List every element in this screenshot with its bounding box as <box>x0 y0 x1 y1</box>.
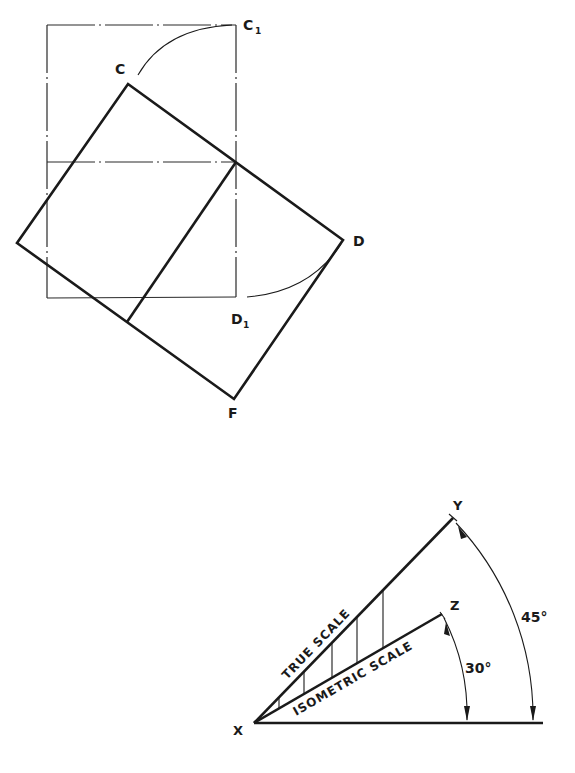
label-d: D <box>353 233 365 249</box>
label-x: X <box>233 723 243 738</box>
arrowhead-30-bottom <box>464 706 470 721</box>
label-y: Y <box>452 498 463 513</box>
inner-dividing-line <box>127 162 236 322</box>
label-d1-subscript: 1 <box>243 320 249 330</box>
label-angle-30: 30° <box>465 660 491 676</box>
label-f: F <box>228 405 238 421</box>
label-d1: D <box>231 311 243 327</box>
top-figure: C C 1 D D 1 F <box>17 17 365 421</box>
label-c: C <box>115 61 125 77</box>
label-z: Z <box>450 598 459 613</box>
arrowhead-45-bottom <box>530 706 536 721</box>
true-scale-line <box>254 518 453 723</box>
bottom-figure: TRUE SCALE ISOMETRIC SCALE X Y Z 30° 45° <box>233 498 547 738</box>
label-c1: C <box>243 17 253 33</box>
arc-c-to-c1 <box>138 25 232 75</box>
rotated-square <box>17 84 343 399</box>
label-c1-subscript: 1 <box>255 26 261 36</box>
arc-d-to-d1 <box>247 244 341 297</box>
drawing-canvas: C C 1 D D 1 F TRUE SCAL <box>0 0 575 773</box>
arrowhead-45-top <box>458 526 467 539</box>
construction-bottom-line <box>47 297 236 298</box>
label-angle-45: 45° <box>521 609 547 625</box>
